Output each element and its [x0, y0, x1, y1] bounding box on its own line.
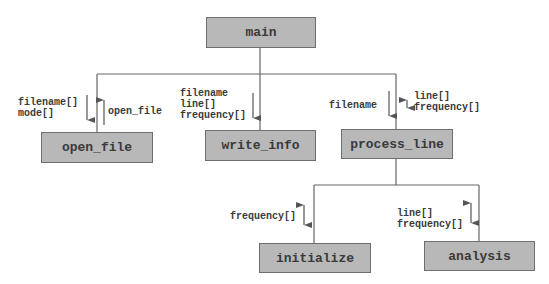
node-open-file: open_file [41, 132, 153, 163]
flow-label-process-line-in: filename [329, 100, 377, 111]
node-main: main [206, 17, 316, 48]
flow-label-open-file-in: filename[] mode[] [18, 97, 78, 119]
node-initialize: initialize [259, 243, 371, 273]
flow-label-write-info-in: filename line[] frequency[] [180, 88, 246, 121]
flow-label-initialize-inout: frequency[] [230, 211, 296, 222]
node-process-line: process_line [341, 129, 453, 159]
flow-label-analysis-inout: line[] frequency[] [397, 208, 463, 230]
node-write-info: write_info [205, 130, 316, 161]
node-analysis: analysis [424, 241, 535, 271]
flow-label-open-file-out: open_file [108, 106, 162, 117]
flow-label-process-line-inout: line[] frequency[] [414, 91, 480, 113]
structure-chart: main open_file write_info process_line i… [0, 0, 549, 284]
